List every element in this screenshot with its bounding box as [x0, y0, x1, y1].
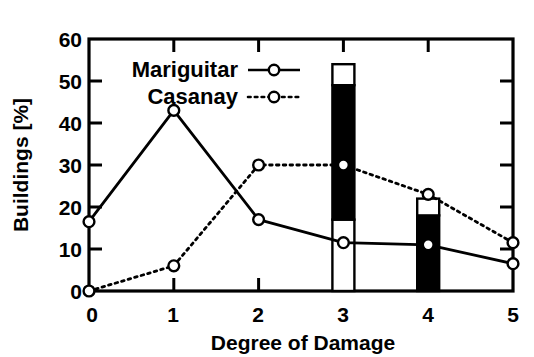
- bar-segment-white: [332, 64, 354, 85]
- x-tick-label-2: 2: [252, 303, 264, 326]
- y-tick-label-30: 30: [59, 154, 82, 177]
- series-line-mariguitar: [89, 110, 513, 263]
- x-tick-label-1: 1: [167, 303, 179, 326]
- data-point-casanay: [84, 286, 95, 297]
- bar-segment-black: [332, 85, 354, 219]
- y-tick-label-40: 40: [59, 112, 82, 135]
- chart-figure: Buildings [%] 60 50 40 30 20 10 0 0 1 2 …: [0, 0, 534, 357]
- data-point-casanay: [423, 189, 434, 200]
- x-axis-title: Degree of Damage: [211, 331, 395, 354]
- data-point-mariguitar: [423, 239, 434, 250]
- data-point-mariguitar: [84, 216, 95, 227]
- bar-segment-white: [417, 199, 439, 216]
- x-tick-labels: 0 1 2 3 4 5: [86, 303, 519, 326]
- data-point-casanay: [338, 160, 349, 171]
- y-tick-label-50: 50: [59, 70, 82, 93]
- legend-label-mariguitar: Mariguitar: [132, 57, 239, 82]
- y-tick-label-60: 60: [59, 28, 82, 51]
- series-line-casanay: [89, 165, 513, 291]
- plot-area: MariguitarCasanay: [84, 39, 519, 296]
- y-tick-labels: 60 50 40 30 20 10 0: [59, 28, 82, 303]
- y-tick-label-10: 10: [59, 238, 82, 261]
- y-tick-label-0: 0: [70, 280, 82, 303]
- legend-marker-mariguitar: [269, 65, 279, 75]
- bar-segment-black: [417, 215, 439, 291]
- data-point-casanay: [168, 260, 179, 271]
- x-tick-label-0: 0: [86, 303, 98, 326]
- x-tick-label-5: 5: [507, 303, 519, 326]
- legend-marker-casanay: [269, 92, 279, 102]
- x-tick-label-4: 4: [422, 303, 434, 326]
- bar-segment-white: [332, 220, 354, 291]
- damage-distribution-chart: Buildings [%] 60 50 40 30 20 10 0 0 1 2 …: [0, 0, 534, 357]
- y-axis-title: Buildings [%]: [9, 98, 32, 232]
- data-point-casanay: [253, 160, 264, 171]
- data-point-mariguitar: [338, 237, 349, 248]
- data-point-mariguitar: [253, 214, 264, 225]
- y-tick-label-20: 20: [59, 196, 82, 219]
- data-point-casanay: [508, 237, 519, 248]
- legend-label-casanay: Casanay: [147, 84, 238, 109]
- x-tick-label-3: 3: [337, 303, 349, 326]
- data-point-mariguitar: [508, 258, 519, 269]
